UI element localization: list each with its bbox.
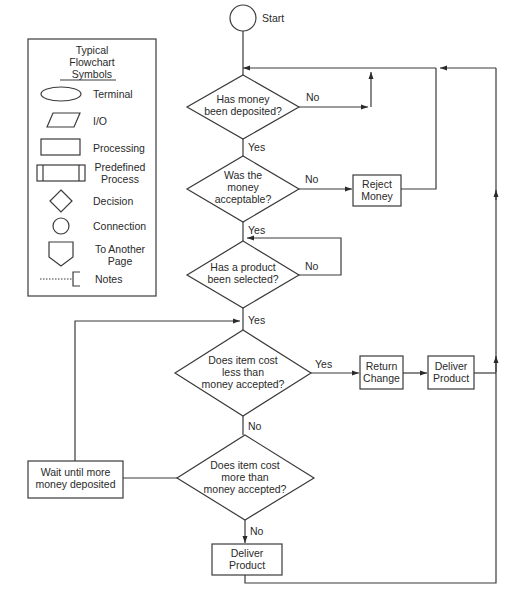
process-deliver-product-2: Deliver Product: [212, 544, 282, 575]
svg-text:money: money: [227, 181, 259, 193]
start-connection-icon: [230, 5, 256, 31]
svg-text:Return: Return: [366, 360, 398, 372]
edge-label-d1-yes: Yes: [248, 141, 265, 153]
process-return-change: Return Change: [360, 356, 403, 389]
processing-symbol-icon: [41, 139, 80, 155]
svg-text:Deliver: Deliver: [435, 360, 468, 372]
svg-text:Product: Product: [229, 559, 265, 571]
legend-title-line-1: Typical: [76, 44, 109, 56]
svg-text:money deposited: money deposited: [36, 478, 116, 490]
decision-cost-more: Does item cost more than money accepted?: [177, 435, 314, 520]
svg-text:Change: Change: [363, 372, 400, 384]
svg-text:acceptable?: acceptable?: [215, 193, 272, 205]
legend-label-offpage-1: To Another: [95, 243, 146, 255]
edge-label-d1-no: No: [306, 91, 320, 103]
process-deliver-product-1: Deliver Product: [428, 356, 474, 389]
legend: Typical Flowchart Symbols Terminal I/O P…: [28, 39, 156, 296]
svg-text:been selected?: been selected?: [207, 273, 278, 285]
start-label: Start: [262, 12, 284, 24]
vending-machine-flowchart: Typical Flowchart Symbols Terminal I/O P…: [0, 0, 523, 611]
edge-label-d3-yes: Yes: [248, 314, 265, 326]
edge-label-d4-no: No: [248, 420, 262, 432]
legend-label-processing: Processing: [93, 142, 145, 154]
decision-product-selected: Has a product been selected?: [187, 241, 299, 308]
legend-label-decision: Decision: [93, 195, 133, 207]
edge-label-d3-no: No: [305, 260, 319, 272]
svg-text:been deposited?: been deposited?: [204, 105, 282, 117]
svg-text:Was the: Was the: [224, 169, 262, 181]
edge-label-d5-no: No: [250, 525, 264, 537]
legend-label-offpage-2: Page: [108, 255, 133, 267]
svg-text:money accepted?: money accepted?: [202, 378, 285, 390]
start-terminal: Start: [230, 5, 284, 31]
legend-label-connection: Connection: [93, 220, 146, 232]
svg-text:Reject: Reject: [362, 178, 392, 190]
legend-label-notes: Notes: [95, 273, 122, 285]
edge-label-d2-yes: Yes: [248, 224, 265, 236]
legend-title-line-2: Flowchart: [69, 56, 115, 68]
legend-title-line-3: Symbols: [72, 68, 112, 80]
svg-text:Has money: Has money: [216, 93, 270, 105]
decision-cost-less: Does item cost less than money accepted?: [175, 330, 311, 416]
svg-text:more than: more than: [221, 471, 268, 483]
process-wait-more-money: Wait until more money deposited: [28, 461, 123, 498]
svg-text:Has a product: Has a product: [210, 261, 275, 273]
svg-text:Money: Money: [361, 190, 393, 202]
predefined-process-symbol-icon: [37, 165, 85, 181]
svg-text:less than: less than: [222, 366, 264, 378]
legend-label-predefined-1: Predefined: [95, 161, 146, 173]
decision-money-deposited: Has money been deposited?: [187, 75, 299, 139]
connection-symbol-icon: [53, 218, 69, 234]
decision-money-acceptable: Was the money acceptable?: [187, 156, 299, 222]
edge-label-d2-no: No: [305, 173, 319, 185]
svg-text:money accepted?: money accepted?: [204, 483, 287, 495]
svg-text:Deliver: Deliver: [231, 547, 264, 559]
edge-label-d4-yes: Yes: [315, 358, 332, 370]
io-symbol-icon: [47, 113, 80, 127]
svg-text:Wait until more: Wait until more: [41, 466, 111, 478]
svg-text:Product: Product: [433, 372, 469, 384]
legend-label-predefined-2: Process: [101, 173, 139, 185]
process-reject-money: Reject Money: [353, 175, 401, 206]
legend-label-io: I/O: [93, 115, 107, 127]
terminal-symbol-icon: [41, 87, 81, 101]
svg-text:Does item cost: Does item cost: [210, 459, 280, 471]
legend-label-terminal: Terminal: [93, 88, 133, 100]
svg-text:Does item cost: Does item cost: [208, 354, 278, 366]
